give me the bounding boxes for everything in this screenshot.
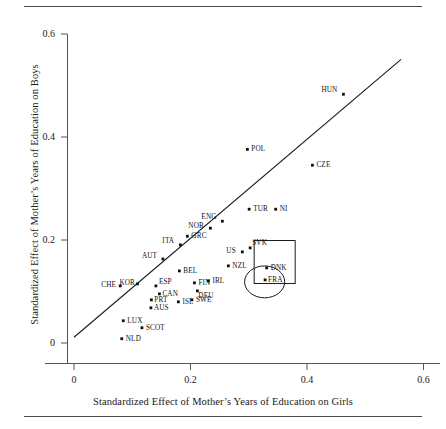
data-point-AUT (161, 258, 164, 261)
point-label-HUN: HUN (321, 86, 337, 94)
point-label-CHE: CHE (101, 281, 116, 289)
point-label-GRC: GRC (191, 232, 206, 240)
x-tick-label-1: 0.2 (174, 374, 208, 385)
data-point-ENG (221, 220, 224, 223)
point-label-NLD: NLD (126, 335, 141, 343)
figure-container: HUNPOLCZETURNIENGNORGRCITASVKUSAUTNZLDNK… (0, 0, 446, 429)
point-label-BEL: BEL (183, 267, 197, 275)
data-point-US (241, 250, 244, 253)
data-point-ISL (177, 300, 180, 303)
data-point-NI (274, 208, 277, 211)
point-label-DNK: DNK (271, 264, 287, 272)
data-point-FRA (264, 279, 267, 282)
data-points (119, 93, 345, 340)
data-point-SVK (249, 246, 252, 249)
point-label-US: US (226, 247, 236, 255)
point-label-NOR: NOR (188, 222, 204, 230)
point-label-KOR: KOR (119, 279, 135, 287)
scatter-plot (0, 0, 446, 429)
data-point-FIN (193, 281, 196, 284)
point-label-LUX: LUX (127, 317, 142, 325)
data-point-LUX (122, 319, 125, 322)
data-point-KOR (136, 282, 139, 285)
data-point-POL (246, 148, 249, 151)
data-point-HUN (342, 93, 345, 96)
point-label-PRT: PRT (154, 296, 167, 304)
data-point-ESP (154, 284, 157, 287)
axes (45, 34, 440, 364)
point-label-ITA: ITA (162, 237, 174, 245)
tick-marks (61, 34, 424, 370)
data-point-TUR (248, 208, 251, 211)
point-label-SVK: SVK (252, 239, 267, 247)
regression-line (74, 59, 401, 337)
data-point-PRT (150, 298, 153, 301)
y-axis-title: Standardized Effect of Mother’s Years of… (29, 30, 40, 360)
fit-line (74, 59, 401, 337)
x-axis-title: Standardized Effect of Mother’s Years of… (0, 396, 446, 407)
data-point-ITA (179, 243, 182, 246)
point-label-AUT: AUT (142, 252, 157, 260)
data-point-NZL (227, 264, 230, 267)
point-label-SWE: SWE (196, 296, 212, 304)
data-point-SCOT (141, 326, 144, 329)
point-label-FIN: FIN (198, 279, 210, 287)
point-label-TUR: TUR (253, 205, 268, 213)
data-point-NOR (209, 227, 212, 230)
point-label-SCOT: SCOT (146, 324, 165, 332)
x-tick-label-0: 0 (57, 374, 91, 385)
data-point-BEL (178, 270, 181, 273)
point-label-NZL: NZL (232, 262, 246, 270)
point-label-ENG: ENG (201, 213, 216, 221)
data-point-NLD (120, 337, 123, 340)
data-point-DNK (265, 266, 268, 269)
point-label-ESP: ESP (159, 278, 172, 286)
point-label-ISL: ISL (182, 298, 193, 306)
data-point-CZE (311, 164, 314, 167)
point-label-IRL: IRL (212, 277, 224, 285)
point-label-POL: POL (251, 145, 265, 153)
data-point-AUS (149, 306, 152, 309)
point-label-NI: NI (280, 205, 288, 213)
data-point-GRC (186, 235, 189, 238)
x-tick-label-3: 0.6 (407, 374, 441, 385)
point-label-AUS: AUS (154, 304, 169, 312)
point-label-CZE: CZE (316, 161, 330, 169)
x-tick-label-2: 0.4 (290, 374, 324, 385)
point-label-FRA: FRA (268, 276, 282, 284)
